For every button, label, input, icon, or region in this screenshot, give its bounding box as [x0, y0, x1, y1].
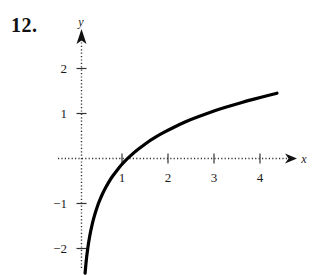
- y-tick-label-2: 2: [61, 61, 68, 76]
- x-axis-label: x: [300, 152, 307, 166]
- y-tick-label-minus-2: −2: [53, 241, 67, 256]
- figure-page: 12. 1 2 3 4 2 1 −1 −: [0, 0, 318, 275]
- arrow-up-icon: [77, 29, 87, 44]
- x-tick-label-2: 2: [165, 170, 172, 185]
- y-tick-label-1: 1: [61, 106, 68, 121]
- x-tick-label-3: 3: [211, 170, 218, 185]
- graph-canvas: 1 2 3 4 2 1 −1 −2 x y: [0, 0, 318, 275]
- y-axis-label: y: [77, 15, 84, 29]
- x-tick-label-4: 4: [257, 170, 264, 185]
- function-curve: [85, 93, 277, 273]
- y-tick-label-minus-1: −1: [53, 196, 67, 211]
- x-tick-label-1: 1: [119, 170, 126, 185]
